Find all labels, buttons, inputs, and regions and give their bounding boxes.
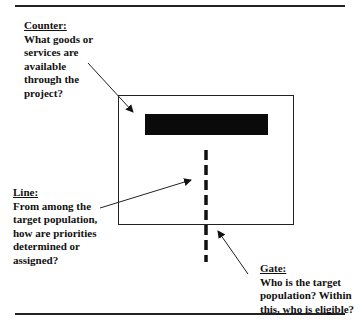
gate-text-line: Who is the target <box>260 276 354 290</box>
gate-arrow <box>218 231 248 274</box>
gate-title: Gate: <box>260 262 354 276</box>
line-text-line: assigned? <box>13 254 97 268</box>
line-text-line: determined or <box>13 240 97 254</box>
counter-text-line: services are <box>24 46 93 60</box>
line-text-line: how are priorities <box>13 227 97 241</box>
line-arrow <box>100 180 191 208</box>
counter-bar <box>145 114 268 135</box>
line-text-line: From among the <box>13 200 97 214</box>
counter-text-line: project? <box>24 87 93 101</box>
counter-title: Counter: <box>24 19 93 33</box>
counter-label: Counter: What goods or services are avai… <box>24 19 93 100</box>
line-text-line: target population, <box>13 213 97 227</box>
counter-text-line: through the <box>24 73 93 87</box>
gate-text-line: this, who is eligible? <box>260 303 354 317</box>
counter-arrow <box>88 63 133 112</box>
line-label: Line: From among the target population, … <box>13 186 97 267</box>
gate-label: Gate: Who is the target population? With… <box>260 262 354 316</box>
counter-text-line: available <box>24 60 93 74</box>
gate-text-line: population? Within <box>260 289 354 303</box>
line-title: Line: <box>13 186 97 200</box>
counter-text-line: What goods or <box>24 33 93 47</box>
